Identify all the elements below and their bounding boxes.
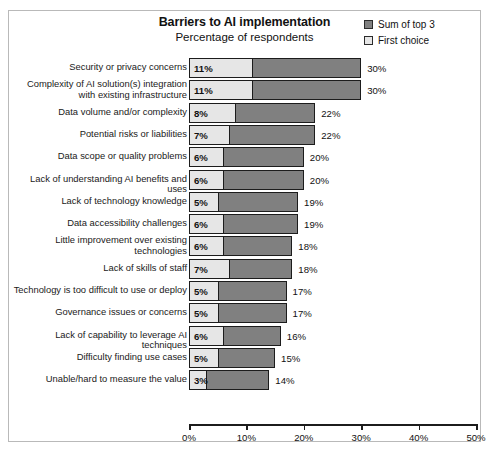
category-label: Unable/hard to measure the value <box>9 374 187 385</box>
bar-segment-sum-of-top-3: 5% <box>189 281 287 301</box>
category-label: Security or privacy concerns <box>9 62 187 73</box>
bar-value-total: 19% <box>304 219 323 230</box>
bar-value-total: 18% <box>298 241 317 252</box>
chart-legend: Sum of top 3 First choice <box>364 17 472 49</box>
chart-header: Barriers to AI implementation Percentage… <box>9 15 480 51</box>
bar-value-first-choice: 7% <box>194 129 208 140</box>
table-row: Unable/hard to measure the value3%14% <box>9 370 480 390</box>
category-label: Governance issues or concerns <box>9 307 187 318</box>
bar-segment-sum-of-top-3: 7% <box>189 259 292 279</box>
bar-segment-first-choice: 5% <box>190 349 219 367</box>
bar-segment-sum-of-top-3: 8% <box>189 103 315 123</box>
category-label: Potential risks or liabilities <box>9 129 187 140</box>
category-label: Lack of technology knowledge <box>9 196 187 207</box>
bar-segment-first-choice: 3% <box>190 371 207 389</box>
legend-swatch-first-choice <box>364 36 373 45</box>
table-row: Lack of capability to leverage AI techni… <box>9 326 480 346</box>
category-label: Difficulty finding use cases <box>9 352 187 363</box>
legend-label-sum-of-top-3: Sum of top 3 <box>378 19 435 30</box>
bar-segment-sum-of-top-3: 7% <box>189 125 315 145</box>
bar-track: 6%18% <box>189 236 476 256</box>
table-row: Complexity of AI solution(s) integration… <box>9 80 480 100</box>
bar-segment-first-choice: 7% <box>190 260 230 278</box>
bar-segment-first-choice: 11% <box>190 81 253 99</box>
table-row: Data scope or quality problems6%20% <box>9 147 480 167</box>
table-row: Security or privacy concerns11%30% <box>9 58 480 78</box>
bar-value-first-choice: 8% <box>194 107 208 118</box>
table-row: Lack of technology knowledge5%19% <box>9 192 480 212</box>
table-row: Potential risks or liabilities7%22% <box>9 125 480 145</box>
bar-segment-first-choice: 6% <box>190 148 224 166</box>
bar-value-first-choice: 5% <box>194 196 208 207</box>
bar-value-total: 18% <box>298 263 317 274</box>
category-label: Lack of skills of staff <box>9 263 187 274</box>
bar-segment-first-choice: 5% <box>190 282 219 300</box>
table-row: Lack of understanding AI benefits and us… <box>9 170 480 190</box>
bar-track: 7%22% <box>189 125 476 145</box>
bar-segment-first-choice: 7% <box>190 126 230 144</box>
bar-segment-sum-of-top-3: 5% <box>189 303 287 323</box>
bar-value-total: 30% <box>367 85 386 96</box>
plot-area: Security or privacy concerns11%30%Comple… <box>9 51 480 441</box>
chart-figure: Barriers to AI implementation Percentage… <box>8 10 481 442</box>
bar-value-first-choice: 6% <box>194 174 208 185</box>
table-row: Difficulty finding use cases5%15% <box>9 348 480 368</box>
category-label: Complexity of AI solution(s) integration… <box>9 79 187 100</box>
legend-label-first-choice: First choice <box>378 35 429 46</box>
x-axis-tick-label: 50% <box>466 432 485 443</box>
x-axis-tick-label: 20% <box>294 432 313 443</box>
bar-value-first-choice: 5% <box>194 308 208 319</box>
bar-value-total: 15% <box>281 352 300 363</box>
bar-track: 6%16% <box>189 326 476 346</box>
bar-track: 5%19% <box>189 192 476 212</box>
bar-segment-first-choice: 8% <box>190 104 236 122</box>
bar-track: 7%18% <box>189 259 476 279</box>
bar-value-total: 22% <box>321 129 340 140</box>
bar-segment-sum-of-top-3: 5% <box>189 192 298 212</box>
bar-track: 8%22% <box>189 103 476 123</box>
table-row: Technology is too difficult to use or de… <box>9 281 480 301</box>
category-label: Data accessibility challenges <box>9 218 187 229</box>
table-row: Governance issues or concerns5%17% <box>9 303 480 323</box>
category-label: Data volume and/or complexity <box>9 107 187 118</box>
bar-segment-sum-of-top-3: 6% <box>189 326 281 346</box>
bar-track: 6%20% <box>189 147 476 167</box>
bar-value-total: 16% <box>287 330 306 341</box>
table-row: Data volume and/or complexity8%22% <box>9 103 480 123</box>
bar-segment-first-choice: 5% <box>190 304 219 322</box>
bar-segment-sum-of-top-3: 5% <box>189 348 275 368</box>
bar-track: 6%20% <box>189 170 476 190</box>
category-label: Technology is too difficult to use or de… <box>9 285 187 296</box>
bar-segment-first-choice: 6% <box>190 237 224 255</box>
x-axis-tick <box>246 424 248 430</box>
legend-item-first-choice: First choice <box>364 33 472 47</box>
table-row: Little improvement over existing technol… <box>9 236 480 256</box>
x-axis-tick <box>304 424 306 430</box>
bar-segment-first-choice: 6% <box>190 171 224 189</box>
x-axis-tick-label: 0% <box>182 432 196 443</box>
table-row: Lack of skills of staff7%18% <box>9 259 480 279</box>
bar-track: 6%19% <box>189 214 476 234</box>
bar-segment-sum-of-top-3: 6% <box>189 236 292 256</box>
bar-segment-first-choice: 6% <box>190 215 224 233</box>
bar-value-total: 20% <box>310 174 329 185</box>
bar-value-first-choice: 6% <box>194 241 208 252</box>
bar-track: 11%30% <box>189 80 476 100</box>
bar-track: 5%17% <box>189 281 476 301</box>
bar-track: 5%17% <box>189 303 476 323</box>
bar-segment-sum-of-top-3: 3% <box>189 370 269 390</box>
x-axis-tick <box>361 424 363 430</box>
x-axis-tick-label: 30% <box>352 432 371 443</box>
bar-value-first-choice: 11% <box>194 85 213 96</box>
x-axis-tick-label: 40% <box>409 432 428 443</box>
bar-value-first-choice: 5% <box>194 286 208 297</box>
bar-value-first-choice: 6% <box>194 330 208 341</box>
bar-segment-first-choice: 5% <box>190 193 219 211</box>
bar-value-first-choice: 3% <box>194 375 208 386</box>
legend-swatch-sum-of-top-3 <box>364 20 373 29</box>
bar-segment-first-choice: 11% <box>190 59 253 77</box>
bar-value-total: 20% <box>310 152 329 163</box>
category-label: Data scope or quality problems <box>9 151 187 162</box>
bar-track: 11%30% <box>189 58 476 78</box>
bar-segment-sum-of-top-3: 6% <box>189 170 304 190</box>
